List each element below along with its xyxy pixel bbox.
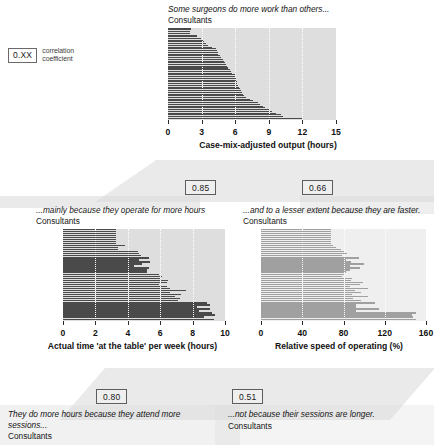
chart-bars	[168, 28, 336, 120]
axis-tick	[261, 321, 262, 325]
chart-gridline	[385, 229, 386, 321]
chart-gridline	[269, 28, 270, 120]
axis-tick-label: 120	[378, 328, 392, 338]
axis-ticks	[261, 321, 426, 328]
chart-plot-area	[168, 28, 336, 120]
panel-caption: ...mainly because they operate for more …	[36, 205, 241, 216]
axis-tick	[302, 321, 303, 325]
axis-tick-labels: 03691215	[168, 127, 336, 139]
correlation-badge-085: 0.85	[185, 180, 216, 195]
poster-canvas: 0.XX correlation coefficient Some surgeo…	[0, 0, 434, 445]
axis-tick	[426, 321, 427, 325]
axis-tick-label: 40	[297, 328, 307, 338]
correlation-badge-080: 0.80	[96, 389, 127, 404]
chart-gridline	[302, 229, 303, 321]
chart-axis: 04080120160	[261, 321, 426, 340]
axis-title: Actual time 'at the table' per week (hou…	[24, 341, 241, 351]
panel-subtitle: Consultants	[36, 217, 241, 227]
axis-tick-label: 80	[339, 328, 349, 338]
axis-tick-label: 15	[331, 127, 341, 137]
chart-gridline	[336, 28, 337, 120]
axis-tick	[63, 321, 64, 325]
panel-subtitle: Consultants	[8, 431, 218, 441]
axis-tick-label: 6	[233, 127, 238, 137]
axis-tick-label: 3	[199, 127, 204, 137]
chart-gridline	[302, 28, 303, 120]
axis-tick	[269, 120, 270, 124]
chart-gridline	[193, 229, 194, 321]
axis-tick	[193, 321, 194, 325]
axis-tick	[385, 321, 386, 325]
chart-gridline	[235, 28, 236, 120]
panel-actual-time-at-table: ...mainly because they operate for more …	[36, 205, 241, 351]
chart-gridline	[225, 229, 226, 321]
chart-axis: 0246810	[63, 321, 225, 340]
chart-plot-area	[63, 229, 225, 321]
panel-session-length: ...not because their sessions are longer…	[228, 409, 433, 431]
axis-tick-labels: 04080120160	[261, 328, 426, 340]
correlation-badge-051: 0.51	[232, 389, 263, 404]
chart-gridline	[202, 28, 203, 120]
axis-title: Case-mix-adjusted output (hours)	[168, 140, 368, 150]
chart-bars	[63, 229, 225, 321]
panel-subtitle: Consultants	[168, 16, 368, 26]
axis-tick-label: 8	[190, 328, 195, 338]
axis-tick-label: 6	[158, 328, 163, 338]
axis-tick-label: 10	[220, 328, 230, 338]
chart-gridline	[95, 229, 96, 321]
legend-key: 0.XX correlation coefficient	[8, 47, 74, 64]
axis-tick	[336, 120, 337, 124]
panel-caption: ...and to a lesser extent because they a…	[243, 205, 434, 216]
chart-bars	[261, 229, 426, 321]
legend-line-2: coefficient	[42, 55, 74, 63]
legend-line-1: correlation	[42, 47, 74, 55]
panel-subtitle: Consultants	[243, 217, 434, 227]
panel-caption: ...not because their sessions are longer…	[228, 409, 433, 420]
axis-tick-label: 0	[166, 127, 171, 137]
panel-subtitle: Consultants	[228, 421, 433, 431]
axis-ticks	[63, 321, 225, 328]
axis-tick	[202, 120, 203, 124]
axis-title: Relative speed of operating (%)	[243, 341, 434, 351]
axis-tick-labels: 0246810	[63, 328, 225, 340]
panel-sessions-attended: They do more hours because they attend m…	[8, 409, 218, 441]
chart-gridline	[128, 229, 129, 321]
axis-tick-label: 4	[125, 328, 130, 338]
chart-gridline	[426, 229, 427, 321]
axis-tick-label: 2	[93, 328, 98, 338]
axis-tick-label: 0	[259, 328, 264, 338]
legend-value: 0.XX	[8, 48, 37, 63]
axis-tick	[128, 321, 129, 325]
chart-gridline	[344, 229, 345, 321]
axis-tick	[344, 321, 345, 325]
legend-description: correlation coefficient	[42, 47, 74, 64]
chart-axis: 03691215	[168, 120, 336, 139]
axis-tick	[302, 120, 303, 124]
panel-case-mix-adjusted-output: Some surgeons do more work than others..…	[168, 4, 368, 150]
axis-tick	[235, 120, 236, 124]
correlation-badge-066: 0.66	[302, 180, 333, 195]
panel-caption: They do more hours because they attend m…	[8, 409, 218, 430]
axis-ticks	[168, 120, 336, 127]
axis-tick-label: 0	[61, 328, 66, 338]
axis-tick-label: 12	[298, 127, 308, 137]
axis-tick	[95, 321, 96, 325]
panel-relative-speed-of-operating: ...and to a lesser extent because they a…	[243, 205, 434, 351]
axis-tick	[225, 321, 226, 325]
panel-caption: Some surgeons do more work than others..…	[168, 4, 368, 15]
axis-tick-label: 160	[419, 328, 433, 338]
axis-tick-label: 9	[266, 127, 271, 137]
axis-tick	[160, 321, 161, 325]
chart-gridline	[160, 229, 161, 321]
axis-tick	[168, 120, 169, 124]
chart-plot-area	[261, 229, 426, 321]
